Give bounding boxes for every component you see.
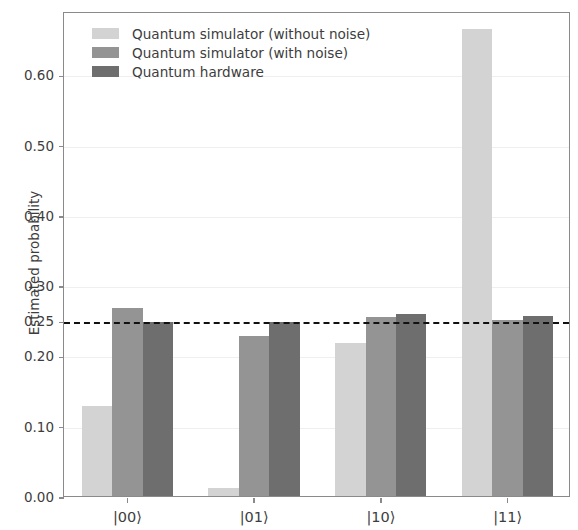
bar bbox=[143, 322, 173, 496]
bar bbox=[82, 406, 112, 496]
y-axis-tick-label: 0.10 bbox=[0, 419, 54, 435]
y-axis-tick bbox=[59, 357, 64, 358]
y-axis-tick bbox=[59, 146, 64, 147]
gridline bbox=[64, 217, 569, 218]
x-axis-tick-label: |10⟩ bbox=[321, 509, 441, 525]
y-axis-label: Estimated probability bbox=[26, 153, 42, 373]
y-axis-tick-label: 0.25 bbox=[0, 313, 54, 329]
y-axis-tick bbox=[59, 286, 64, 287]
y-axis-tick bbox=[59, 76, 64, 77]
legend-label: Quantum simulator (with noise) bbox=[132, 45, 348, 61]
x-axis-tick bbox=[380, 498, 381, 503]
bar bbox=[112, 308, 142, 496]
y-axis-tick-label: 0.30 bbox=[0, 278, 54, 294]
y-axis-tick bbox=[59, 427, 64, 428]
bar bbox=[523, 316, 553, 496]
legend-swatch-icon bbox=[92, 47, 119, 58]
x-axis-tick-label: |01⟩ bbox=[194, 509, 314, 525]
y-axis-tick-label: 0.20 bbox=[0, 348, 54, 364]
legend: Quantum simulator (without noise)Quantum… bbox=[90, 21, 376, 85]
legend-label: Quantum hardware bbox=[132, 64, 264, 80]
y-axis-tick-label: 0.60 bbox=[0, 67, 54, 83]
bar bbox=[366, 317, 396, 496]
bar bbox=[396, 314, 426, 496]
y-axis-tick-label: 0.40 bbox=[0, 208, 54, 224]
legend-item: Quantum simulator (without noise) bbox=[92, 24, 370, 43]
legend-item: Quantum simulator (with noise) bbox=[92, 43, 370, 62]
bar bbox=[239, 336, 269, 496]
legend-label: Quantum simulator (without noise) bbox=[132, 26, 370, 42]
x-axis-tick-label: |11⟩ bbox=[448, 509, 568, 525]
y-axis-tick bbox=[59, 216, 64, 217]
bar bbox=[462, 29, 492, 496]
plot-area: 0.000.100.200.250.300.400.500.60 |00⟩|01… bbox=[63, 12, 570, 497]
gridline bbox=[64, 147, 569, 148]
legend-item: Quantum hardware bbox=[92, 62, 370, 81]
bar-chart-figure: Estimated probability 0.000.100.200.250.… bbox=[0, 0, 578, 530]
plot-inner bbox=[64, 13, 569, 496]
x-axis-tick-label: |00⟩ bbox=[67, 509, 187, 525]
legend-swatch-icon bbox=[92, 66, 119, 77]
x-axis-tick bbox=[507, 498, 508, 503]
gridline bbox=[64, 287, 569, 288]
bar bbox=[335, 343, 365, 496]
x-axis-tick bbox=[253, 498, 254, 503]
y-axis-tick bbox=[59, 497, 64, 498]
uniform-probability-threshold bbox=[64, 322, 569, 324]
x-axis-tick bbox=[127, 498, 128, 503]
bar bbox=[492, 320, 522, 496]
bar bbox=[269, 322, 299, 496]
y-axis-tick-label: 0.50 bbox=[0, 138, 54, 154]
y-axis-tick-label: 0.00 bbox=[0, 489, 54, 505]
bar bbox=[208, 488, 238, 496]
legend-swatch-icon bbox=[92, 28, 119, 39]
